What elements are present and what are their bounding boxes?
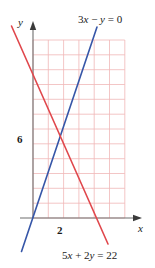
x-tick-label-2: 2 [57, 225, 63, 236]
x-axis-label: x [138, 223, 143, 234]
grid-lines [33, 40, 125, 218]
y-tick-label-6: 6 [17, 134, 23, 145]
equation-label-blue: 3x − y = 0 [78, 14, 122, 25]
x-axis-arrow [133, 215, 142, 221]
eq-blue-right-hand-side: 0 [117, 13, 123, 25]
eq-red-operator: + [75, 249, 81, 261]
plot-canvas [0, 0, 155, 268]
y-axis-label: y [18, 17, 23, 28]
eq-red-right-hand-side: 22 [106, 249, 117, 261]
y-axis-arrow [30, 21, 36, 30]
graph-figure: y x 6 2 3x − y = 0 5x + 2y = 22 [0, 0, 155, 268]
eq-red-variable-x: x [68, 249, 73, 261]
eq-red-variable-y: y [90, 249, 95, 261]
eq-blue-equals-sign: = [108, 13, 114, 25]
eq-blue-variable-y: y [100, 13, 105, 25]
eq-blue-variable-x: x [84, 13, 89, 25]
eq-blue-operator: − [91, 13, 97, 25]
equation-label-red: 5x + 2y = 22 [62, 250, 117, 261]
line-red-5x-plus-2y-equals-22 [12, 26, 109, 244]
eq-red-equals-sign: = [97, 249, 103, 261]
